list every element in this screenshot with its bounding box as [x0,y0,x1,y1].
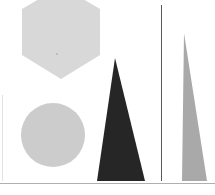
figure-canvas [0,0,215,195]
hexagon-center-dot [56,53,57,54]
circle-shape [21,103,85,167]
shapes-svg [0,0,215,195]
